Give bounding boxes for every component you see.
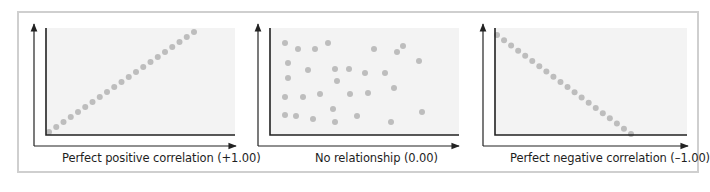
data-point [346,66,352,72]
data-point [104,89,110,95]
data-point [515,48,521,54]
data-point [614,121,620,127]
data-point [119,79,125,85]
data-point [68,114,74,120]
data-point [400,43,406,49]
data-point [300,94,306,100]
data-point [325,40,331,46]
data-point [508,42,514,48]
data-point [394,49,400,55]
data-point [177,39,183,45]
data-point [61,119,67,125]
data-point [600,110,606,116]
label-no-relationship: No relationship (0.00) [315,151,438,165]
data-point [155,54,161,60]
data-point [419,109,425,115]
data-point [46,129,52,135]
panel-negative-correlation [483,24,688,146]
data-point [90,99,96,105]
data-point [293,113,299,119]
data-point [557,79,563,85]
data-point [365,90,371,96]
plot-area [270,28,459,135]
plot-area [495,28,687,135]
data-point [305,67,311,73]
data-point [362,70,368,76]
data-point [586,100,592,106]
data-point [543,68,549,74]
data-point [382,70,388,76]
data-point [579,95,585,101]
data-point [310,116,316,122]
data-point [347,91,353,97]
data-point [330,106,336,112]
data-point [529,58,535,64]
label-positive-correlation: Perfect positive correlation (+1.00) [62,151,261,165]
data-point [162,49,168,55]
data-point [536,63,542,69]
data-point [285,60,291,66]
panel-positive-correlation [34,24,236,146]
data-point [628,131,634,137]
data-point [184,34,190,40]
data-point [388,119,394,125]
data-point [97,94,103,100]
data-point [140,64,146,70]
data-point [282,94,288,100]
data-point [550,74,556,80]
data-point [334,78,340,84]
data-point [312,46,318,52]
data-point [282,40,288,46]
data-point [332,119,338,125]
data-point [607,115,613,121]
data-point [191,29,197,35]
data-point [332,66,338,72]
data-point [416,58,422,64]
data-point [391,85,397,91]
data-point [53,124,59,130]
data-point [371,46,377,52]
data-point [317,91,323,97]
panel-no-relationship [258,24,459,146]
data-point [285,75,291,81]
data-point [501,37,507,43]
label-negative-correlation: Perfect negative correlation (–1.00) [510,151,710,165]
data-point [522,53,528,59]
data-point [282,112,288,118]
data-point [169,44,175,50]
data-point [111,84,117,90]
data-point [82,104,88,110]
data-point [126,74,132,80]
data-point [295,46,301,52]
data-point [354,113,360,119]
data-point [565,84,571,90]
data-point [75,109,81,115]
data-point [148,59,154,65]
data-point [572,89,578,95]
data-point [593,105,599,111]
data-point [133,69,139,75]
plot-area [46,28,235,135]
data-point [621,126,627,132]
